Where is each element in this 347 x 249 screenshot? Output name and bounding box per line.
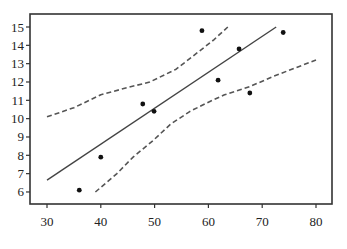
data-point [200, 28, 205, 33]
x-tick-label: 30 [41, 214, 54, 229]
x-tick-label: 40 [94, 214, 107, 229]
data-point [216, 78, 221, 83]
x-tick-label: 60 [202, 214, 215, 229]
x-tick-label: 70 [256, 214, 269, 229]
data-point [281, 30, 286, 35]
y-tick-label: 7 [18, 166, 25, 181]
x-tick-label: 50 [148, 214, 161, 229]
data-point [77, 188, 82, 193]
data-point [247, 91, 252, 96]
y-tick-label: 8 [18, 148, 25, 163]
plot-area [30, 14, 332, 204]
data-point [237, 47, 242, 52]
x-axis: 304050607080 [41, 204, 323, 229]
y-tick-label: 11 [11, 93, 24, 108]
data-point [152, 109, 157, 114]
y-tick-label: 12 [11, 74, 24, 89]
y-tick-label: 6 [18, 184, 25, 199]
data-point [140, 102, 145, 107]
data-point [98, 155, 103, 160]
y-tick-label: 9 [18, 129, 25, 144]
y-tick-label: 13 [11, 56, 24, 71]
y-tick-label: 10 [11, 111, 24, 126]
x-tick-label: 80 [310, 214, 323, 229]
y-axis: 6789101112131415 [11, 20, 30, 200]
y-tick-label: 15 [11, 20, 24, 35]
y-tick-label: 14 [11, 38, 25, 53]
scatter-plot: 6789101112131415 304050607080 [0, 0, 347, 249]
